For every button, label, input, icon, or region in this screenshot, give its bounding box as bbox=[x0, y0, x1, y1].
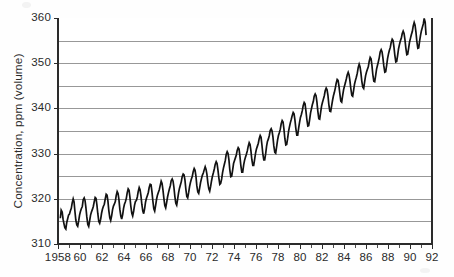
x-tick-label-1974: 74 bbox=[227, 251, 241, 263]
x-tick-label-1964: 64 bbox=[117, 251, 131, 263]
x-tick-label-1968: 68 bbox=[161, 251, 174, 263]
y-tick-label-310: 310 bbox=[31, 237, 51, 249]
x-tick-label-1984: 84 bbox=[337, 251, 351, 263]
x-tick-label-1986: 86 bbox=[359, 251, 372, 263]
x-tick-label-1966: 66 bbox=[139, 251, 152, 263]
chart-figure: 310320330340350360 195860626466687072747… bbox=[0, 0, 454, 277]
y-tick-label-340: 340 bbox=[31, 101, 51, 113]
y-tick-label-320: 320 bbox=[31, 192, 51, 204]
x-tick-labels: 19586062646668707274767880828486889092 bbox=[45, 251, 439, 263]
x-axis-ticks bbox=[59, 244, 433, 249]
x-tick-label-1976: 76 bbox=[249, 251, 262, 263]
y-tick-label-350: 350 bbox=[31, 56, 51, 68]
x-tick-label-1962: 62 bbox=[95, 251, 108, 263]
x-tick-label-1970: 70 bbox=[183, 251, 196, 263]
x-tick-label-1982: 82 bbox=[315, 251, 328, 263]
x-tick-label-1990: 90 bbox=[403, 251, 416, 263]
x-tick-label-1978: 78 bbox=[271, 251, 284, 263]
x-tick-label-1972: 72 bbox=[205, 251, 218, 263]
y-tick-label-330: 330 bbox=[31, 147, 51, 159]
x-tick-label-1980: 80 bbox=[293, 251, 306, 263]
x-tick-label-1992: 92 bbox=[425, 251, 438, 263]
y-axis-ticks bbox=[54, 19, 58, 245]
y-tick-labels: 310320330340350360 bbox=[31, 11, 51, 249]
y-tick-label-360: 360 bbox=[31, 11, 51, 23]
y-axis-label: Concentration, ppm (volume) bbox=[11, 54, 25, 209]
x-tick-label-1960: 60 bbox=[73, 251, 86, 263]
keeling-curve-chart: 310320330340350360 195860626466687072747… bbox=[0, 0, 454, 277]
x-tick-label-1958: 1958 bbox=[45, 251, 71, 263]
x-tick-label-1988: 88 bbox=[381, 251, 394, 263]
plot-background bbox=[58, 18, 432, 244]
